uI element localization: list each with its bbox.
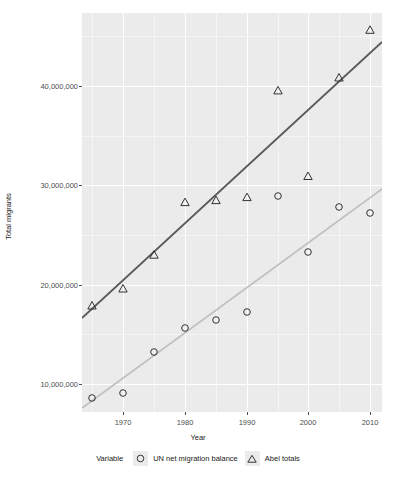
- x-tick-mark-2010: [370, 412, 371, 415]
- trend-line-un-net-migration-balance: [82, 189, 382, 408]
- y-tick-label-40m: 40,000,000: [40, 82, 78, 91]
- y-tick-label-30m: 30,000,000: [40, 181, 78, 190]
- point-abel-1980: [181, 198, 189, 206]
- legend-label-abel-totals: Abel totals: [265, 454, 300, 463]
- data-layer: [82, 13, 382, 412]
- plot-panel: [82, 13, 382, 412]
- point-un-1995: [275, 193, 282, 200]
- point-un-1975: [151, 349, 158, 356]
- legend-entry-abel-totals[interactable]: Abel totals: [245, 451, 300, 466]
- legend-title: Variable: [96, 454, 123, 463]
- circle-marker-icon: [133, 451, 148, 466]
- x-tick-label-1970: 1970: [115, 418, 132, 427]
- point-abel-1970: [119, 285, 127, 293]
- point-un-1980: [182, 325, 189, 332]
- y-axis-title: Total migrants: [4, 193, 13, 240]
- point-un-1990: [244, 309, 251, 316]
- x-tick-label-2010: 2010: [362, 418, 379, 427]
- series-un-net-migration-balance: [89, 193, 374, 402]
- x-axis-title: Year: [0, 433, 396, 442]
- legend: Variable UN net migration balance Abel t…: [0, 451, 396, 466]
- legend-entry-un-net-migration-balance[interactable]: UN net migration balance: [133, 451, 238, 466]
- x-tick-mark-1970: [123, 412, 124, 415]
- scatter-plot-figure: 40,000,000 30,000,000 20,000,000 10,000,…: [0, 0, 396, 477]
- x-tick-mark-2000: [308, 412, 309, 415]
- x-tick-mark-1980: [185, 412, 186, 415]
- series-abel-totals: [88, 26, 374, 309]
- triangle-marker-icon: [245, 451, 260, 466]
- x-tick-label-1990: 1990: [239, 418, 256, 427]
- y-tick-mark-20m: [79, 285, 82, 286]
- y-tick-label-20m: 20,000,000: [40, 281, 78, 290]
- point-un-1985: [213, 317, 220, 324]
- point-un-1970: [120, 390, 127, 397]
- y-tick-mark-40m: [79, 86, 82, 87]
- point-un-2005: [336, 204, 343, 211]
- y-tick-mark-30m: [79, 185, 82, 186]
- y-tick-mark-10m: [79, 384, 82, 385]
- point-abel-2010: [366, 26, 374, 34]
- point-abel-1995: [274, 86, 282, 94]
- trend-line-abel-totals: [82, 42, 382, 318]
- point-abel-1990: [243, 193, 251, 201]
- point-abel-2000: [304, 172, 312, 180]
- y-tick-label-10m: 10,000,000: [40, 380, 78, 389]
- x-tick-mark-1990: [247, 412, 248, 415]
- x-tick-label-2000: 2000: [300, 418, 317, 427]
- legend-label-un-net-migration-balance: UN net migration balance: [153, 454, 238, 463]
- point-un-2000: [305, 249, 312, 256]
- point-un-2010: [367, 210, 374, 217]
- x-tick-label-1980: 1980: [177, 418, 194, 427]
